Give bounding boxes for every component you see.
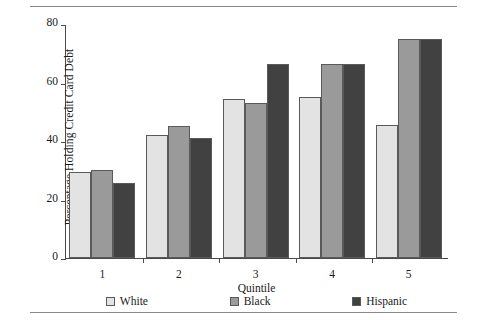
bar-group-quintile-3 [223, 25, 289, 258]
bars-area: 12345 [66, 25, 448, 258]
bar-black-q2 [168, 126, 190, 258]
bar-white-q2 [146, 135, 168, 258]
x-axis-title: Quintile [65, 282, 448, 294]
bar-black-q1 [91, 170, 113, 258]
bar-hispanic-q2 [190, 138, 212, 258]
x-axis-label-2: 2 [159, 268, 199, 280]
bar-hispanic-q3 [267, 64, 289, 259]
legend-label: Hispanic [366, 295, 407, 307]
top-rule [30, 6, 457, 7]
x-axis-label-3: 3 [236, 268, 276, 280]
legend-label: Black [244, 295, 271, 307]
x-axis-tick-mark [372, 258, 373, 263]
x-axis-tick-mark [296, 258, 297, 263]
legend-swatch-icon [352, 297, 361, 306]
bar-group-quintile-2 [146, 25, 212, 258]
x-axis-label-1: 1 [82, 268, 122, 280]
y-axis-tick-label: 40 [47, 134, 59, 146]
bar-group-quintile-1 [69, 25, 135, 258]
legend-label: White [120, 295, 148, 307]
bar-black-q3 [245, 103, 267, 258]
legend-swatch-icon [230, 297, 239, 306]
y-axis-tick-label: 0 [52, 251, 58, 263]
legend-item-white[interactable]: White [106, 295, 148, 307]
bar-white-q3 [223, 99, 245, 258]
bar-white-q5 [376, 125, 398, 258]
figure: Percentage Holding Credit Card Debt 0204… [0, 0, 487, 325]
bar-black-q4 [321, 64, 343, 259]
bottom-rule [30, 312, 457, 313]
chart-legend: WhiteBlackHispanic [65, 295, 448, 307]
bar-black-q5 [398, 39, 420, 258]
y-axis-tick-60: 60 [40, 84, 66, 85]
legend-swatch-icon [106, 297, 115, 306]
y-axis-tick-label: 60 [47, 76, 59, 88]
y-axis-tick-40: 40 [40, 142, 66, 143]
x-axis-label-4: 4 [312, 268, 352, 280]
bar-group-quintile-5 [376, 25, 442, 258]
plot-frame: Percentage Holding Credit Card Debt 0204… [65, 25, 448, 259]
y-axis-tick-label: 80 [47, 17, 59, 29]
legend-item-black[interactable]: Black [230, 295, 271, 307]
y-axis-tick-80: 80 [40, 25, 66, 26]
bar-group-quintile-4 [299, 25, 365, 258]
bar-hispanic-q5 [420, 39, 442, 258]
y-axis-tick-20: 20 [40, 201, 66, 202]
legend-item-hispanic[interactable]: Hispanic [352, 295, 407, 307]
x-axis-label-5: 5 [389, 268, 429, 280]
bar-white-q4 [299, 97, 321, 258]
bar-hispanic-q4 [343, 64, 365, 259]
y-axis-tick-mark [61, 259, 66, 260]
x-axis-tick-mark [143, 258, 144, 263]
bar-hispanic-q1 [113, 183, 135, 258]
bar-white-q1 [69, 172, 91, 258]
y-axis-tick-label: 20 [47, 193, 59, 205]
y-axis-tick-0: 0 [40, 259, 66, 260]
x-axis-tick-mark [219, 258, 220, 263]
